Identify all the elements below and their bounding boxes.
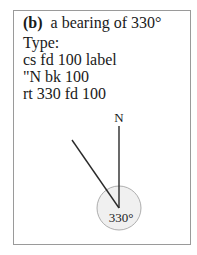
- north-label: N: [114, 110, 124, 125]
- bearing-line: [72, 140, 119, 208]
- bearing-diagram: N 330°: [0, 0, 197, 255]
- angle-label: 330°: [109, 210, 134, 225]
